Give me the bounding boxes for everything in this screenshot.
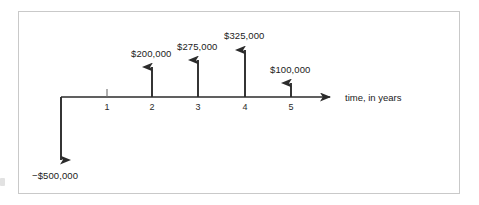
tick-label-1: 1: [104, 103, 109, 112]
flow-label-inflow-year-5: $100,000: [270, 65, 310, 75]
flow-label-inflow-year-4: $325,000: [224, 31, 264, 41]
flow-label-inflow-year-2: $200,000: [131, 49, 171, 59]
flow-label-inflow-year-3: $275,000: [177, 42, 217, 52]
cash-flow-diagram: 1 2 3 4 5 −$500,000 $200,000 $275,000 $3…: [0, 0, 479, 205]
tick-label-2: 2: [149, 103, 154, 112]
tick-label-3: 3: [195, 103, 200, 112]
flow-label-outflow-year-0: −$500,000: [32, 171, 78, 181]
tick-label-5: 5: [288, 103, 293, 112]
axis-label-time: time, in years: [345, 93, 402, 103]
tick-label-4: 4: [242, 103, 247, 112]
